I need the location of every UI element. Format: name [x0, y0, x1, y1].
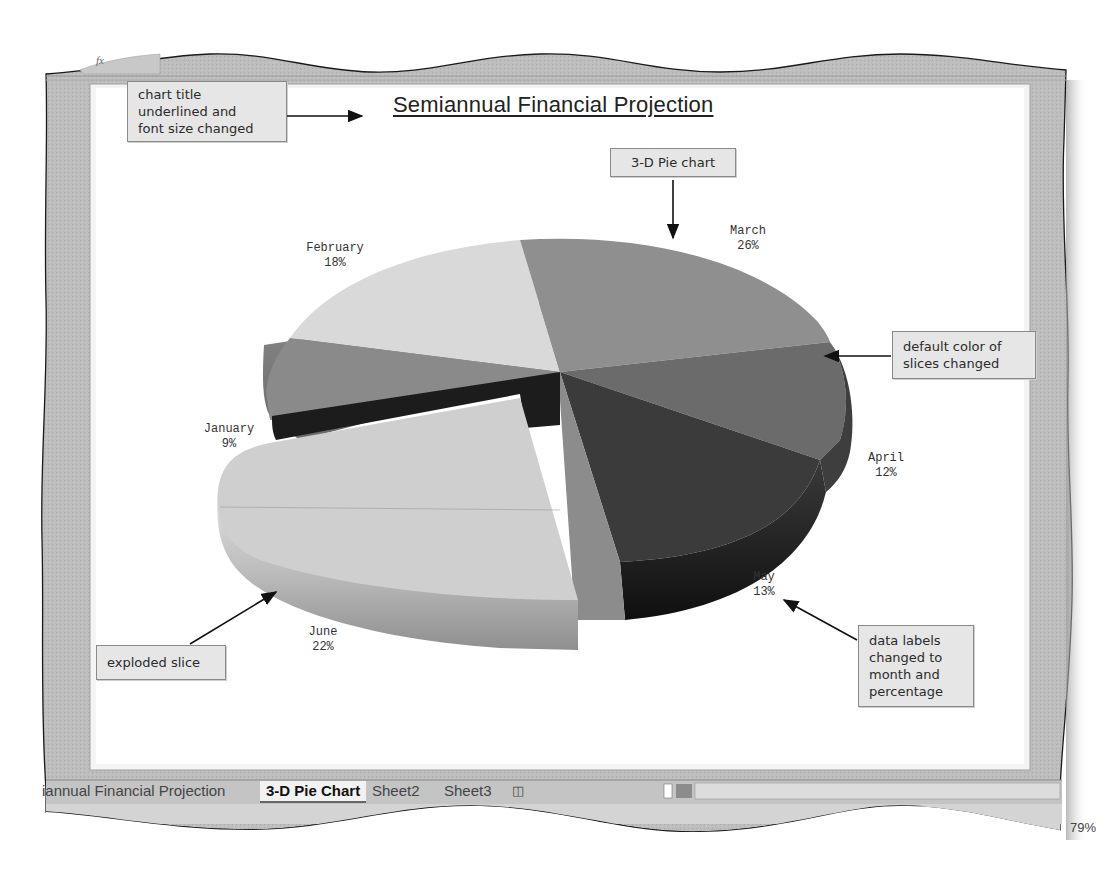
sheet-tabs-bar: iannual Financial Projection 3-D Pie Cha… — [46, 781, 1062, 803]
zoom-level[interactable]: 79% — [1070, 820, 1096, 835]
callout-line: slices changed — [903, 355, 1025, 372]
data-label-april[interactable]: April 12% — [864, 451, 908, 481]
callout-explode-note: exploded slice — [96, 645, 226, 680]
callout-line: percentage — [869, 683, 963, 700]
callout-color-note: default color of slices changed — [892, 331, 1036, 379]
tab-sheet3[interactable]: Sheet3 — [444, 781, 492, 801]
data-label-march[interactable]: March 26% — [723, 224, 773, 254]
callout-pie-note: 3-D Pie chart — [610, 148, 736, 177]
label-pct: 26% — [723, 239, 773, 254]
callout-line: chart title — [138, 86, 276, 103]
label-pct: 13% — [748, 585, 780, 600]
label-pct: 12% — [864, 466, 908, 481]
tab-semiannual-financial-projection[interactable]: iannual Financial Projection — [42, 781, 225, 801]
label-month: February — [300, 241, 370, 256]
label-month: January — [198, 422, 260, 437]
data-label-january[interactable]: January 9% — [198, 422, 260, 452]
label-month: April — [864, 451, 908, 466]
callout-line: month and — [869, 666, 963, 683]
label-pct: 9% — [198, 437, 260, 452]
callout-line: font size changed — [138, 120, 276, 137]
data-label-may[interactable]: May 13% — [748, 570, 780, 600]
label-pct: 18% — [300, 256, 370, 271]
tab-3d-pie-chart[interactable]: 3-D Pie Chart — [260, 781, 366, 803]
callout-line: 3-D Pie chart — [631, 155, 715, 170]
callout-title-note: chart title underlined and font size cha… — [127, 81, 287, 142]
callout-labels-note: data labels changed to month and percent… — [858, 625, 974, 707]
callout-line: data labels — [869, 632, 963, 649]
chart-title[interactable]: Semiannual Financial Projection — [393, 92, 713, 118]
data-label-june[interactable]: June 22% — [305, 625, 341, 655]
tab-sheet2[interactable]: Sheet2 — [372, 781, 420, 801]
data-label-february[interactable]: February 18% — [300, 241, 370, 271]
label-pct: 22% — [305, 640, 341, 655]
label-month: June — [305, 625, 341, 640]
label-month: March — [723, 224, 773, 239]
callout-line: default color of — [903, 338, 1025, 355]
callout-line: changed to — [869, 649, 963, 666]
insert-sheet-icon[interactable]: ◫ — [512, 781, 524, 801]
callout-line: underlined and — [138, 103, 276, 120]
callout-line: exploded slice — [107, 655, 200, 670]
label-month: May — [748, 570, 780, 585]
